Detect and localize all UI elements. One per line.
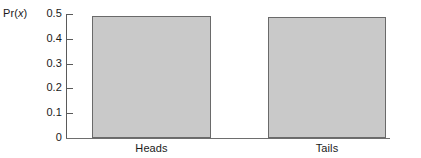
bar-heads	[92, 16, 211, 138]
y-axis-tick-label: 0.1	[46, 106, 62, 118]
y-axis-tick-mark	[67, 14, 73, 15]
y-axis-label: Pr(x)	[3, 7, 27, 19]
y-axis-tick-mark	[67, 64, 73, 65]
y-axis-label-suffix: )	[24, 7, 28, 19]
y-axis-tick-mark	[67, 113, 73, 114]
y-axis-line	[66, 14, 67, 138]
y-axis-tick-label: 0.4	[46, 32, 62, 44]
bar-tails	[268, 17, 386, 138]
y-axis-label-prefix: Pr(	[3, 7, 18, 19]
x-axis-tick-label-tails: Tails	[316, 142, 339, 154]
y-axis-tick-label: 0.3	[46, 57, 62, 69]
y-axis-tick-mark	[67, 39, 73, 40]
y-axis-tick-label: 0.2	[46, 81, 62, 93]
y-axis-tick-mark	[67, 88, 73, 89]
x-axis-line	[66, 138, 390, 139]
bar-chart-figure: Pr(x) 00.10.20.30.40.5 HeadsTails	[0, 0, 421, 158]
x-axis-tick-label-heads: Heads	[135, 142, 167, 154]
y-axis-tick-label: 0.5	[46, 7, 62, 19]
y-axis-tick-label: 0	[56, 131, 62, 143]
